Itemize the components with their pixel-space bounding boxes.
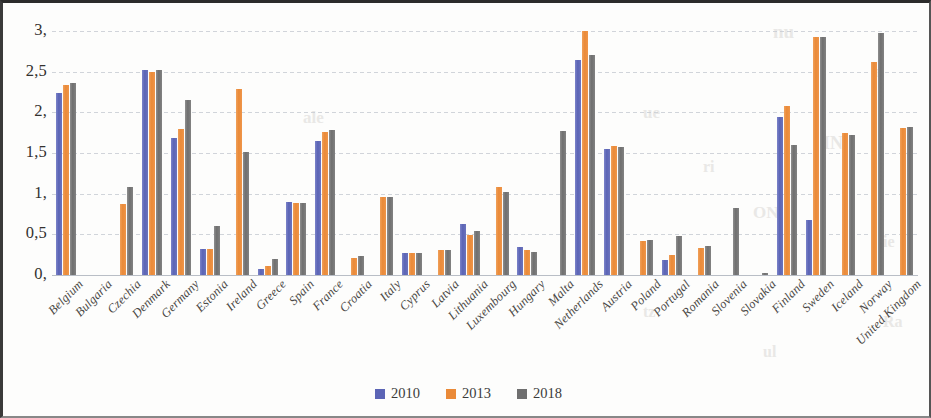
y-axis-tick-label: 1,5 [3, 142, 47, 162]
bar-austria-2010 [604, 149, 610, 275]
y-axis-tick-label: 3, [3, 20, 47, 40]
bar-group [458, 31, 487, 275]
bar-hungary-2010 [517, 247, 523, 275]
bar-hungary-2013 [524, 250, 530, 275]
bar-france-2010 [315, 141, 321, 275]
y-axis-tick-label: 2, [3, 101, 47, 121]
bar-group [775, 31, 804, 275]
bar-netherlands-2010 [575, 60, 581, 275]
bar-spain-2010 [286, 202, 292, 275]
bar-latvia-2018 [445, 250, 451, 275]
legend-swatch-icon [517, 389, 527, 399]
bar-belgium-2010 [56, 93, 62, 275]
bar-group [400, 31, 429, 275]
bar-estonia-2013 [207, 249, 213, 275]
bar-sweden-2013 [813, 37, 819, 275]
bar-finland-2018 [791, 145, 797, 275]
bar-group [82, 31, 111, 275]
bar-group [371, 31, 400, 275]
y-axis-tick-labels: 3,2,52,1,51,0,50, [3, 31, 47, 275]
bar-france-2013 [322, 132, 328, 275]
bar-group [198, 31, 227, 275]
bar-ireland-2018 [243, 152, 249, 275]
bar-iceland-2013 [842, 133, 848, 275]
bar-portugal-2013 [669, 255, 675, 275]
x-axis-label-austria: Austria [598, 277, 636, 315]
bar-group [515, 31, 544, 275]
y-axis-tick-label: 0,5 [3, 223, 47, 243]
bar-sweden-2018 [820, 37, 826, 275]
chart-frame: nualeueariINONietzulRa 3,2,52,1,51,0,50,… [0, 0, 931, 418]
bar-finland-2013 [784, 106, 790, 275]
bar-group [169, 31, 198, 275]
bar-croatia-2013 [351, 258, 357, 275]
bar-belgium-2013 [63, 85, 69, 275]
y-axis-tick-label: 0, [3, 264, 47, 284]
legend-item-2010[interactable]: 2010 [375, 385, 420, 402]
bar-group [284, 31, 313, 275]
x-axis-label-sweden: Sweden [799, 277, 837, 315]
bar-poland-2013 [640, 241, 646, 275]
bar-netherlands-2018 [589, 55, 595, 275]
bar-group [689, 31, 718, 275]
bar-spain-2013 [293, 203, 299, 275]
bar-czechia-2018 [127, 187, 133, 275]
bar-greece-2010 [258, 269, 264, 276]
x-axis-category-labels: BelgiumBulgariaCzechiaDenmarkGermanyEsto… [52, 277, 931, 372]
bar-group [891, 31, 920, 275]
legend-swatch-icon [446, 389, 456, 399]
bar-portugal-2018 [676, 236, 682, 275]
bar-united-kingdom-2018 [907, 127, 913, 275]
bar-italy-2013 [380, 197, 386, 275]
legend-label: 2018 [533, 385, 562, 402]
bar-group [111, 31, 140, 275]
bar-germany-2010 [171, 138, 177, 275]
bar-group [833, 31, 862, 275]
bar-group [487, 31, 516, 275]
bar-greece-2018 [272, 259, 278, 275]
bar-austria-2013 [611, 146, 617, 275]
bar-lithuania-2018 [474, 231, 480, 275]
bar-slovakia-2018 [762, 273, 768, 275]
bar-group [140, 31, 169, 275]
bar-romania-2013 [698, 248, 704, 275]
bar-norway-2018 [878, 33, 884, 275]
bar-ireland-2013 [236, 89, 242, 275]
bar-cyprus-2013 [409, 253, 415, 275]
plot-area [52, 31, 918, 275]
chart-legend: 201020132018 [3, 385, 931, 402]
gridline [52, 275, 918, 276]
bar-norway-2013 [871, 62, 877, 275]
bar-romania-2018 [705, 246, 711, 275]
bar-austria-2018 [618, 147, 624, 276]
y-axis-tick-label: 1, [3, 183, 47, 203]
bar-estonia-2018 [214, 226, 220, 275]
bar-group [631, 31, 660, 275]
bar-group [804, 31, 833, 275]
legend-item-2013[interactable]: 2013 [446, 385, 491, 402]
bar-denmark-2013 [149, 72, 155, 275]
bar-series-container [52, 31, 918, 275]
x-axis-label-greece: Greece [252, 277, 289, 314]
bar-group [862, 31, 891, 275]
bar-finland-2010 [777, 117, 783, 275]
legend-label: 2013 [462, 385, 491, 402]
bar-portugal-2010 [662, 260, 668, 275]
bar-group [227, 31, 256, 275]
bar-germany-2018 [185, 100, 191, 275]
bar-group [602, 31, 631, 275]
legend-item-2018[interactable]: 2018 [517, 385, 562, 402]
bar-hungary-2018 [531, 252, 537, 275]
bar-france-2018 [329, 130, 335, 275]
bar-luxembourg-2018 [503, 192, 509, 275]
bar-denmark-2018 [156, 70, 162, 275]
bar-slovenia-2018 [733, 208, 739, 276]
bar-belgium-2018 [70, 83, 76, 275]
bar-poland-2018 [647, 240, 653, 275]
y-axis-tick-label: 2,5 [3, 61, 47, 81]
legend-label: 2010 [391, 385, 420, 402]
bar-luxembourg-2013 [496, 187, 502, 275]
bar-cyprus-2010 [402, 253, 408, 275]
bar-italy-2018 [387, 197, 393, 275]
bar-group [746, 31, 775, 275]
